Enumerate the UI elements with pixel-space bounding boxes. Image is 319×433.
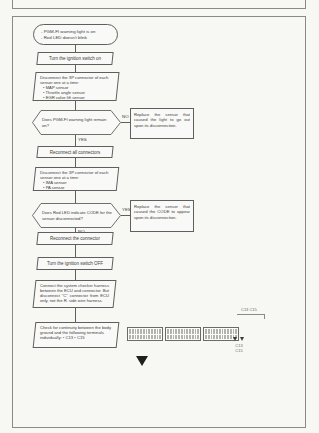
connector-pin bbox=[154, 329, 156, 334]
connector-pin bbox=[132, 329, 134, 334]
flow-line bbox=[75, 191, 76, 203]
connector-pin bbox=[189, 329, 191, 334]
continue-arrow-icon bbox=[136, 356, 148, 366]
connector-pin bbox=[159, 335, 161, 340]
connector-pin bbox=[157, 335, 159, 340]
connector-pin bbox=[213, 335, 215, 340]
connector-pin bbox=[211, 335, 213, 340]
reconnect-connector-label: Reconnect the connector bbox=[50, 236, 100, 241]
disconnect-2-bullet-pa: • PA sensor bbox=[40, 185, 64, 190]
connector-pin bbox=[170, 335, 172, 340]
label-leader-line bbox=[264, 314, 265, 319]
connector-pin bbox=[195, 329, 197, 334]
disconnect-sensors-step-2: Disconnect the 3P connector of each sens… bbox=[33, 167, 120, 191]
connector-pin bbox=[129, 329, 131, 334]
red-led-question: Does Red LED indicate CODE for the senso… bbox=[32, 203, 121, 228]
connector-pin bbox=[140, 335, 142, 340]
connector-pin bbox=[151, 335, 153, 340]
disconnect-1-head: Disconnect the 3P connector of each sens… bbox=[40, 75, 112, 85]
connector-pin bbox=[154, 335, 156, 340]
connector-pin bbox=[157, 329, 159, 334]
flow-line bbox=[75, 158, 76, 167]
warning-light-question: Does PGM-FI warning light remain on? bbox=[32, 110, 121, 135]
connector-pin bbox=[208, 335, 210, 340]
connector-pin bbox=[222, 329, 224, 334]
connector-pin bbox=[224, 335, 226, 340]
connector-pin bbox=[170, 329, 172, 334]
connector-pin bbox=[140, 329, 142, 334]
connector-pin bbox=[129, 335, 131, 340]
replace-sensor-code-box: Replace the sensor that caused the CODE … bbox=[130, 200, 194, 232]
connector-pin bbox=[135, 335, 137, 340]
flow-line bbox=[75, 308, 76, 322]
connector-pin bbox=[197, 329, 199, 334]
flow-line bbox=[75, 101, 76, 110]
flow-line bbox=[121, 215, 130, 216]
connector-pin bbox=[184, 335, 186, 340]
connector-pin bbox=[175, 329, 177, 334]
connector-pin bbox=[192, 329, 194, 334]
label-leader-line bbox=[237, 314, 264, 315]
flow-line bbox=[75, 45, 76, 52]
connector-pin bbox=[186, 335, 188, 340]
connector-pin bbox=[167, 335, 169, 340]
connector-pin bbox=[219, 335, 221, 340]
terminal-marker-icon bbox=[240, 337, 244, 341]
connector-pin bbox=[146, 335, 148, 340]
start-line-2: - Red LED doesn't blink bbox=[41, 35, 110, 41]
connector-pin bbox=[227, 329, 229, 334]
ignition-on-step: Turn the ignition switch on bbox=[36, 52, 113, 65]
marker-caption-c15: C15 bbox=[232, 349, 246, 353]
connector-pin bbox=[224, 329, 226, 334]
connector-pin bbox=[137, 335, 139, 340]
connector-pin bbox=[167, 329, 169, 334]
replace-sensor-light-box: Replace the sensor that caused the light… bbox=[130, 108, 194, 139]
connector-pin bbox=[186, 329, 188, 334]
connector-pin bbox=[135, 329, 137, 334]
connector-pin bbox=[159, 329, 161, 334]
connector-pin bbox=[175, 335, 177, 340]
connector-pin bbox=[146, 329, 148, 334]
connector-pin bbox=[205, 335, 207, 340]
connector-pin bbox=[208, 329, 210, 334]
disconnect-2-head: Disconnect the 3P connector of each sens… bbox=[40, 170, 112, 180]
connector-pin bbox=[181, 329, 183, 334]
connector-pin bbox=[211, 329, 213, 334]
reconnect-connector-step: Reconnect the connector bbox=[36, 232, 113, 245]
connector-pin bbox=[230, 329, 232, 334]
flow-line bbox=[75, 65, 76, 72]
disconnect-1-bullet-egr: • EGR valve lift sensor bbox=[40, 95, 85, 100]
connector-pin bbox=[233, 329, 235, 334]
terminal-marker-icon bbox=[233, 337, 237, 341]
connector-pin bbox=[148, 335, 150, 340]
ignition-off-label: Turn the ignition switch OFF bbox=[47, 261, 103, 266]
ignition-off-step: Turn the ignition switch OFF bbox=[36, 257, 113, 270]
connector-pin bbox=[213, 329, 215, 334]
pin-block bbox=[127, 327, 163, 341]
yes-branch-label: YES bbox=[78, 137, 87, 142]
ignition-on-label: Turn the ignition switch on bbox=[49, 56, 101, 61]
red-led-decision: Does Red LED indicate CODE for the senso… bbox=[32, 203, 121, 228]
continuity-bullet-c13: • C13 bbox=[63, 335, 73, 340]
connector-pin bbox=[195, 335, 197, 340]
flow-line bbox=[121, 122, 130, 123]
connector-pin bbox=[181, 335, 183, 340]
disconnect-sensors-step-1: Disconnect the 3P connector of each sens… bbox=[32, 72, 119, 101]
connector-terminal-label: C13 C15 bbox=[241, 308, 257, 312]
pin-block bbox=[165, 327, 201, 341]
connector-pin bbox=[137, 329, 139, 334]
continuity-check-step: Check for continuity between the body gr… bbox=[33, 322, 120, 348]
connector-pin bbox=[178, 329, 180, 334]
header-strip: 1985-86 STANDARD bbox=[12, 0, 306, 9]
connector-pin bbox=[197, 335, 199, 340]
connector-pin bbox=[148, 329, 150, 334]
no-branch-label: NO bbox=[122, 114, 129, 119]
connector-pin bbox=[132, 335, 134, 340]
connector-pin bbox=[173, 329, 175, 334]
continuity-bullet-c15: • C15 bbox=[74, 335, 84, 340]
connector-pin bbox=[235, 329, 237, 334]
connector-pin bbox=[205, 329, 207, 334]
connector-pin bbox=[227, 335, 229, 340]
reconnect-all-label: Reconnect all connectors bbox=[50, 150, 101, 155]
reconnect-all-step: Reconnect all connectors bbox=[36, 146, 113, 158]
